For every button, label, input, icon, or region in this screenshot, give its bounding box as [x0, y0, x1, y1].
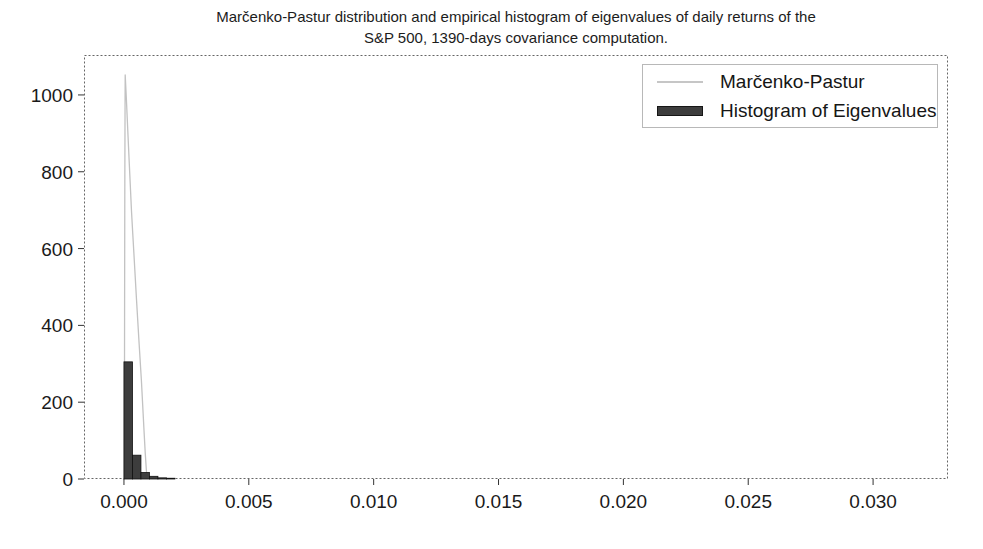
x-tick-label: 0.020 [600, 491, 648, 512]
x-tick-label: 0.030 [849, 491, 897, 512]
legend-label-histogram: Histogram of Eigenvalues [720, 100, 937, 122]
histogram-bar [141, 472, 149, 479]
y-tick-label: 0 [62, 469, 73, 490]
x-tick-label: 0.005 [225, 491, 273, 512]
x-tick-label: 0.000 [100, 491, 148, 512]
legend-entry-marcenko-pastur: Marčenko-Pastur [657, 70, 937, 94]
histogram-bar [124, 362, 132, 479]
chart-title: Marčenko-Pastur distribution and empiric… [84, 7, 948, 48]
x-tick-label: 0.025 [724, 491, 772, 512]
histogram-bar [149, 476, 157, 479]
legend-label-mp: Marčenko-Pastur [720, 71, 865, 93]
mp-line-swatch [657, 81, 703, 83]
y-tick-label: 600 [41, 239, 73, 260]
legend-entry-histogram: Histogram of Eigenvalues [657, 99, 937, 123]
histogram-bar [132, 455, 140, 479]
y-tick-label: 800 [41, 162, 73, 183]
legend-patch-swatch-wrap [657, 106, 703, 116]
histogram-bar [166, 478, 174, 479]
x-tick-label: 0.015 [475, 491, 523, 512]
legend: Marčenko-Pastur Histogram of Eigenvalues [642, 64, 938, 128]
figure: Marčenko-Pastur distribution and empiric… [0, 0, 983, 549]
y-tick-label: 400 [41, 315, 73, 336]
legend-line-swatch-wrap [657, 81, 703, 83]
histogram-swatch [657, 106, 703, 116]
y-tick-label: 200 [41, 392, 73, 413]
x-tick-label: 0.010 [350, 491, 398, 512]
histogram-bar [158, 478, 166, 479]
chart-title-line2: S&P 500, 1390-days covariance computatio… [84, 28, 948, 49]
chart-title-line1: Marčenko-Pastur distribution and empiric… [84, 7, 948, 28]
y-tick-label: 1000 [31, 85, 73, 106]
